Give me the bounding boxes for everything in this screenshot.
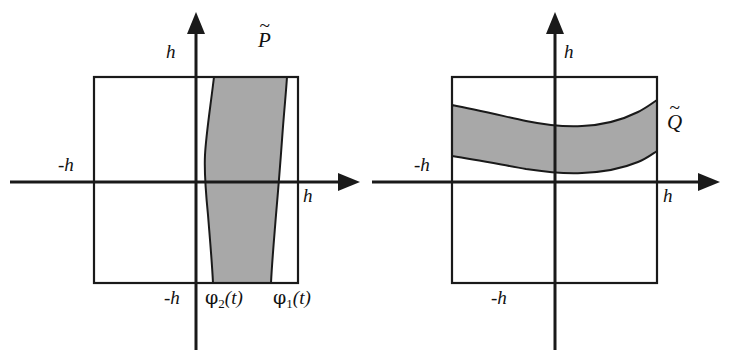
curve-label-phi1: φ1(t) bbox=[273, 288, 311, 310]
y-axis-arrowhead-p bbox=[187, 12, 205, 34]
region-label-q-tilde: ~Q bbox=[667, 112, 682, 133]
panel-q-tilde: h h -h -h ~Q bbox=[368, 0, 736, 360]
panel-p-tilde-drawing bbox=[0, 0, 368, 360]
y-negative-tick-label-p: -h bbox=[164, 288, 180, 307]
region-label-p-tilde: ~P bbox=[258, 30, 271, 51]
phi2-glyph: φ bbox=[205, 286, 218, 308]
x-axis-arrowhead-p bbox=[338, 173, 360, 191]
phi2-argument: (t) bbox=[225, 287, 243, 308]
tilde-accent-p: ~ bbox=[259, 16, 269, 35]
x-negative-tick-label-p: -h bbox=[58, 155, 74, 174]
panel-q-tilde-drawing bbox=[368, 0, 736, 360]
shaded-region-p bbox=[205, 77, 287, 283]
y-axis-arrowhead-q bbox=[546, 12, 564, 34]
phi1-argument: (t) bbox=[293, 287, 311, 308]
phi1-glyph: φ bbox=[273, 286, 286, 308]
x-axis-label-q: h bbox=[663, 186, 673, 205]
panel-p-tilde: h h -h -h ~P φ2(t) φ1(t) bbox=[0, 0, 368, 360]
figure-root: h h -h -h ~P φ2(t) φ1(t) bbox=[0, 0, 736, 360]
curve-label-phi2: φ2(t) bbox=[205, 288, 243, 310]
x-axis-label-p: h bbox=[303, 186, 313, 205]
y-negative-tick-label-q: -h bbox=[491, 288, 507, 307]
x-axis-arrowhead-q bbox=[698, 173, 720, 191]
x-negative-tick-label-q: -h bbox=[414, 155, 430, 174]
tilde-accent-q: ~ bbox=[670, 98, 680, 117]
y-axis-label-q: h bbox=[564, 42, 574, 61]
y-axis-label-p: h bbox=[166, 42, 176, 61]
